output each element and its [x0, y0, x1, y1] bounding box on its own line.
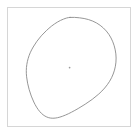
shape-figure [0, 0, 140, 137]
blob-outline-path [26, 17, 116, 118]
center-marker-dot [69, 67, 71, 69]
shape-outline-panel [0, 0, 140, 137]
